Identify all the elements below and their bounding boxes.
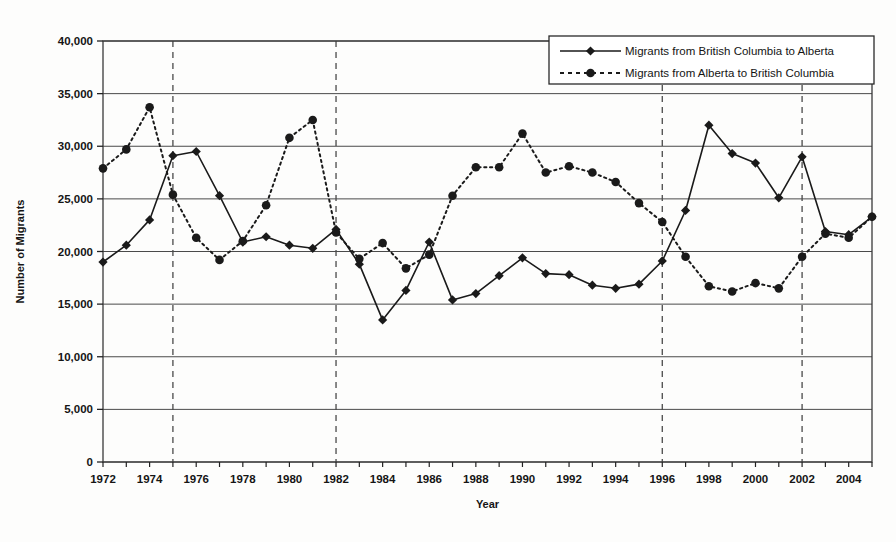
xtick-label: 1978 bbox=[230, 473, 256, 485]
data-point-circle bbox=[728, 287, 737, 296]
data-point-circle bbox=[751, 279, 760, 288]
xtick-label: 1976 bbox=[183, 473, 209, 485]
data-point-circle bbox=[588, 168, 597, 177]
data-point-diamond bbox=[541, 269, 550, 278]
xtick-label: 1984 bbox=[370, 473, 396, 485]
data-point-circle bbox=[611, 178, 620, 187]
ytick-label: 20,000 bbox=[58, 246, 93, 258]
data-point-circle bbox=[215, 256, 224, 265]
data-point-diamond bbox=[681, 206, 690, 215]
data-point-diamond bbox=[285, 241, 294, 250]
data-point-circle bbox=[705, 282, 714, 291]
x-axis-title: Year bbox=[476, 498, 500, 510]
xtick-label: 1990 bbox=[510, 473, 536, 485]
xtick-label: 1982 bbox=[323, 473, 349, 485]
data-point-circle bbox=[798, 252, 807, 261]
data-point-circle bbox=[658, 218, 667, 227]
data-point-circle bbox=[681, 252, 690, 261]
data-point-diamond bbox=[192, 147, 201, 156]
data-point-circle bbox=[518, 129, 527, 138]
xtick-label: 1980 bbox=[277, 473, 303, 485]
data-point-diamond bbox=[797, 152, 806, 161]
series-1 bbox=[98, 121, 876, 325]
data-point-circle bbox=[472, 163, 481, 172]
data-point-circle bbox=[821, 229, 830, 238]
ytick-label: 0 bbox=[87, 456, 93, 468]
data-point-diamond bbox=[588, 281, 597, 290]
data-point-diamond bbox=[168, 151, 177, 160]
data-point-diamond bbox=[611, 284, 620, 293]
ytick-label: 30,000 bbox=[58, 140, 93, 152]
data-point-circle bbox=[169, 190, 178, 199]
xtick-label: 1988 bbox=[463, 473, 489, 485]
data-point-circle bbox=[262, 201, 271, 210]
data-point-diamond bbox=[751, 158, 760, 167]
data-point-diamond bbox=[448, 295, 457, 304]
series-line bbox=[103, 125, 872, 320]
xtick-label: 1972 bbox=[90, 473, 116, 485]
data-point-diamond bbox=[774, 193, 783, 202]
data-point-circle bbox=[565, 162, 574, 171]
data-point-circle bbox=[378, 239, 387, 248]
xtick-label: 1996 bbox=[649, 473, 675, 485]
data-point-circle bbox=[355, 255, 364, 264]
data-point-circle bbox=[99, 164, 108, 173]
data-point-circle bbox=[145, 103, 154, 112]
xtick-label: 1992 bbox=[556, 473, 582, 485]
data-point-circle bbox=[425, 250, 434, 259]
ytick-label: 15,000 bbox=[58, 298, 93, 310]
data-point-circle bbox=[635, 199, 644, 208]
legend-label-2: Migrants from Alberta to British Columbi… bbox=[625, 67, 835, 79]
data-point-circle bbox=[495, 163, 504, 172]
data-point-circle bbox=[774, 284, 783, 293]
data-point-circle bbox=[239, 237, 248, 246]
ytick-label: 40,000 bbox=[58, 35, 93, 47]
xtick-label: 1986 bbox=[416, 473, 442, 485]
ytick-label: 35,000 bbox=[58, 88, 93, 100]
data-point-circle bbox=[332, 228, 341, 237]
data-point-circle bbox=[844, 234, 853, 243]
data-point-circle bbox=[586, 69, 595, 78]
data-point-circle bbox=[868, 212, 877, 221]
data-point-diamond bbox=[564, 270, 573, 279]
xtick-label: 2004 bbox=[836, 473, 862, 485]
legend: Migrants from British Columbia to Albert… bbox=[549, 36, 874, 84]
data-point-circle bbox=[122, 145, 131, 154]
migration-line-chart: 05,00010,00015,00020,00025,00030,00035,0… bbox=[0, 0, 896, 542]
ytick-label: 5,000 bbox=[64, 403, 93, 415]
ytick-label: 25,000 bbox=[58, 193, 93, 205]
y-axis-title: Number of Migrants bbox=[14, 200, 26, 304]
data-point-circle bbox=[448, 191, 457, 200]
xtick-label: 1994 bbox=[603, 473, 629, 485]
data-point-circle bbox=[541, 168, 550, 177]
data-point-circle bbox=[285, 134, 294, 143]
xtick-label: 2002 bbox=[789, 473, 815, 485]
xtick-label: 2000 bbox=[743, 473, 769, 485]
data-point-circle bbox=[192, 234, 201, 243]
chart-canvas: 05,00010,00015,00020,00025,00030,00035,0… bbox=[0, 0, 896, 542]
data-point-circle bbox=[402, 264, 411, 273]
xtick-label: 1998 bbox=[696, 473, 722, 485]
series-2 bbox=[99, 103, 877, 296]
legend-label-1: Migrants from British Columbia to Albert… bbox=[625, 45, 835, 57]
data-point-circle bbox=[308, 116, 317, 125]
xtick-label: 1974 bbox=[137, 473, 163, 485]
ytick-label: 10,000 bbox=[58, 351, 93, 363]
data-point-diamond bbox=[262, 232, 271, 241]
